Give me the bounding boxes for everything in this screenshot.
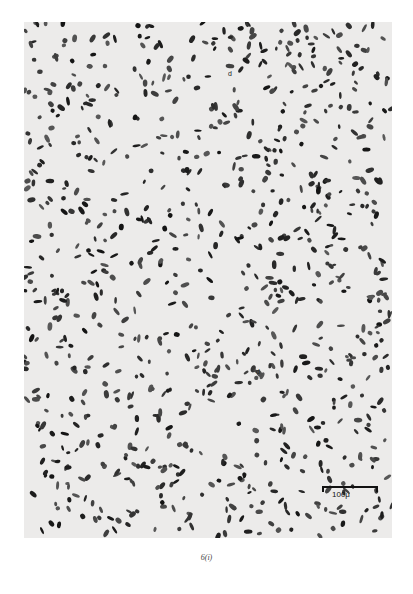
annotation-d-middle: d [256,368,260,375]
scale-bar [322,486,378,492]
annotation-d-top: d [228,70,232,77]
micrograph-plate: d d 100μ [24,22,392,538]
scale-bar-label: 100μ [332,490,350,499]
figure-caption: 6(i) [0,553,413,562]
cell-field [24,22,392,538]
